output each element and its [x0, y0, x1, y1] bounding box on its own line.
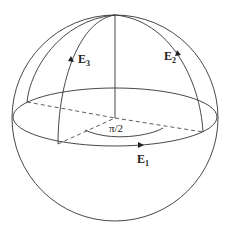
angle-arc [85, 128, 163, 137]
sphere-diagram: E3 E2 E1 π/2 [0, 0, 227, 231]
label-e1: E1 [137, 152, 149, 168]
dashed-line-left [27, 102, 115, 118]
meridian-e2 [115, 15, 203, 132]
arrow-e1-icon [138, 142, 144, 148]
label-angle: π/2 [109, 122, 123, 134]
label-e2: E2 [164, 49, 176, 65]
label-e3: E3 [78, 52, 90, 68]
